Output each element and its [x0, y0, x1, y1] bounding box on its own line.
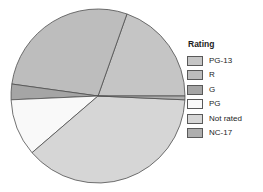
legend-item-label: PG-13	[209, 57, 232, 65]
legend-item-label: Not rated	[209, 115, 242, 123]
legend: Rating PG-13 R G PG Not rated NC-17	[187, 40, 263, 143]
legend-item: NC-17	[187, 128, 263, 138]
legend-title: Rating	[188, 40, 263, 49]
legend-item: PG-13	[187, 56, 263, 66]
pie-chart	[0, 0, 192, 192]
legend-swatch	[187, 70, 203, 80]
legend-swatch	[187, 85, 203, 95]
pie-chart-figure: Rating PG-13 R G PG Not rated NC-17	[0, 0, 263, 192]
legend-item-label: G	[209, 86, 215, 94]
legend-item-label: NC-17	[209, 129, 232, 137]
legend-item: PG	[187, 99, 263, 109]
legend-swatch	[187, 99, 203, 109]
legend-item: R	[187, 70, 263, 80]
legend-swatch	[187, 128, 203, 138]
legend-item: G	[187, 85, 263, 95]
legend-swatch	[187, 56, 203, 66]
legend-item-label: PG	[209, 100, 221, 108]
legend-item: Not rated	[187, 114, 263, 124]
legend-item-label: R	[209, 71, 215, 79]
legend-swatch	[187, 114, 203, 124]
